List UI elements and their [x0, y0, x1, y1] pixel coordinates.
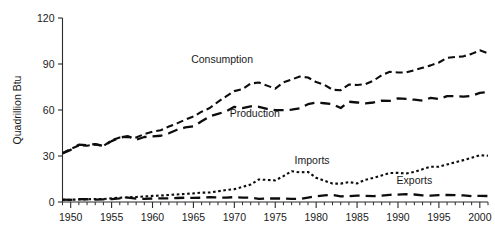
series-label-exports: Exports — [397, 174, 433, 186]
series-label-consumption: Consumption — [191, 53, 253, 65]
energy-overview-chart: 0306090120 19501955196019651970197519801… — [0, 0, 495, 252]
y-tick-label: 60 — [43, 104, 55, 116]
series-label-imports: Imports — [295, 154, 330, 166]
y-tick-label: 120 — [37, 12, 55, 24]
series-line-consumption — [63, 50, 489, 153]
x-tick-label: 1985 — [345, 211, 369, 223]
y-axis: 0306090120 — [37, 12, 63, 208]
y-axis-title: Quadrillion Btu — [11, 75, 23, 144]
x-tick-label: 1965 — [182, 211, 206, 223]
series-line-production — [63, 92, 489, 153]
y-tick-label: 90 — [43, 58, 55, 70]
x-tick-label: 1990 — [386, 211, 410, 223]
x-tick-label: 2000 — [468, 211, 492, 223]
x-tick-label: 1955 — [100, 211, 124, 223]
y-tick-label: 30 — [43, 150, 55, 162]
series-label-production: Production — [230, 107, 280, 119]
x-tick-label: 1950 — [59, 211, 83, 223]
series-line-exports — [63, 194, 489, 200]
chart-canvas: 0306090120 19501955196019651970197519801… — [0, 0, 495, 252]
x-tick-label: 1980 — [304, 211, 328, 223]
x-tick-label: 1995 — [427, 211, 451, 223]
x-tick-label: 1975 — [264, 211, 288, 223]
x-tick-label: 1970 — [223, 211, 247, 223]
x-tick-label: 1960 — [141, 211, 165, 223]
y-tick-label: 0 — [49, 196, 55, 208]
x-axis: 1950195519601965197019751980198519901995… — [59, 202, 492, 223]
